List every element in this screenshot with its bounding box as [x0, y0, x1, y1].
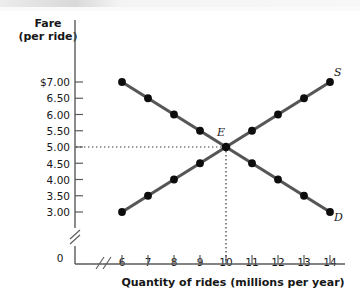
demand-point-8 — [170, 111, 178, 119]
demand-point-13 — [300, 192, 308, 200]
demand-point-7 — [144, 94, 152, 102]
demand-point-6 — [118, 78, 126, 86]
equilibrium-point-marker — [222, 143, 231, 152]
supply-point-9 — [196, 159, 204, 167]
supply-point-13 — [300, 94, 308, 102]
supply-point-14 — [326, 78, 334, 86]
demand-point-12 — [274, 176, 282, 184]
supply-point-11 — [248, 127, 256, 135]
x-axis-break-mark — [96, 257, 111, 269]
y-axis-break-mark — [70, 230, 80, 244]
chart-figure: Fare (per ride) Quantity of rides (milli… — [0, 0, 360, 300]
demand-point-11 — [248, 159, 256, 167]
plot-area — [0, 0, 360, 300]
supply-point-6 — [118, 208, 126, 216]
supply-point-8 — [170, 176, 178, 184]
supply-point-7 — [144, 192, 152, 200]
supply-point-12 — [274, 111, 282, 119]
demand-point-9 — [196, 127, 204, 135]
demand-point-14 — [326, 208, 334, 216]
